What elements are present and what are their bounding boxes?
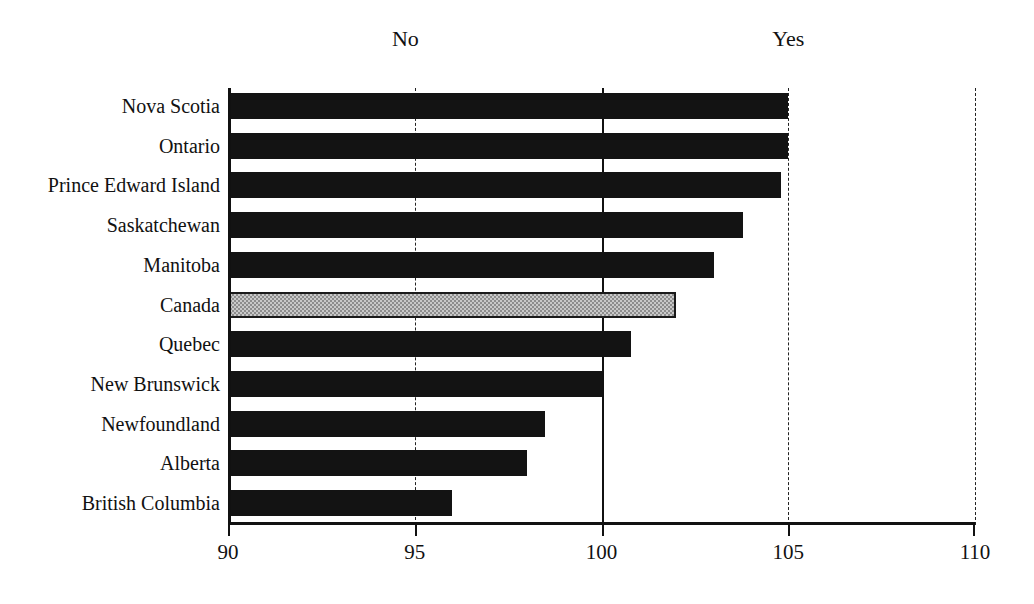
category-label-alberta: Alberta — [10, 451, 220, 475]
x-tick-100 — [602, 525, 604, 536]
x-tick-label-105: 105 — [773, 540, 805, 564]
category-label-british-columbia: British Columbia — [10, 491, 220, 515]
gridline-105 — [788, 88, 790, 525]
annotation-yes: Yes — [772, 26, 804, 52]
bar-canada — [228, 292, 676, 318]
bar-nova-scotia — [228, 93, 788, 119]
x-tick-95 — [415, 525, 417, 536]
bar-saskatchewan — [228, 212, 743, 238]
bar-british-columbia — [228, 490, 452, 516]
bar-chart: No Yes Nova ScotiaOntarioPrince Edward I… — [0, 0, 1034, 604]
plot-area: 9095100105110 — [228, 88, 975, 525]
category-label-canada: Canada — [10, 293, 220, 317]
bar-quebec — [228, 331, 631, 357]
x-tick-110 — [973, 525, 975, 536]
annotation-no: No — [392, 26, 419, 52]
bar-manitoba — [228, 252, 714, 278]
bar-newfoundland — [228, 411, 545, 437]
category-label-newfoundland: Newfoundland — [10, 412, 220, 436]
category-label-saskatchewan: Saskatchewan — [10, 213, 220, 237]
bar-ontario — [228, 133, 788, 159]
category-label-ontario: Ontario — [10, 134, 220, 158]
category-label-manitoba: Manitoba — [10, 253, 220, 277]
x-tick-label-90: 90 — [218, 540, 239, 564]
x-tick-90 — [228, 525, 230, 536]
category-axis: Nova ScotiaOntarioPrince Edward IslandSa… — [8, 88, 220, 525]
y-axis-line — [228, 88, 231, 525]
bar-alberta — [228, 450, 527, 476]
category-label-prince-edward-island: Prince Edward Island — [10, 173, 220, 197]
x-tick-label-100: 100 — [586, 540, 618, 564]
bar-new-brunswick — [228, 371, 602, 397]
x-tick-label-95: 95 — [404, 540, 425, 564]
category-label-nova-scotia: Nova Scotia — [10, 94, 220, 118]
category-label-quebec: Quebec — [10, 332, 220, 356]
x-tick-label-110: 110 — [960, 540, 991, 564]
category-label-new-brunswick: New Brunswick — [10, 372, 220, 396]
gridline-110 — [975, 88, 977, 525]
bar-prince-edward-island — [228, 172, 781, 198]
x-tick-105 — [788, 525, 790, 536]
